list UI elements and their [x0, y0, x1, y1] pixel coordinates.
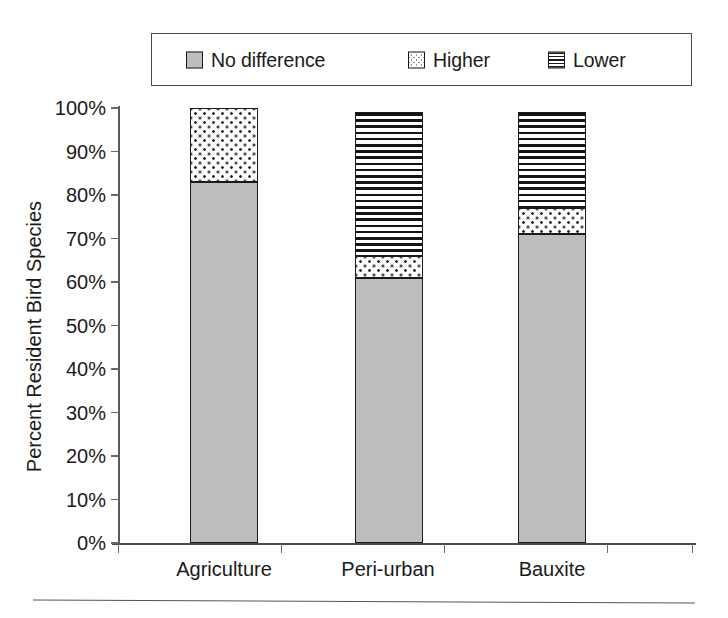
- chart-legend: No difference Higher Lower: [151, 33, 692, 86]
- segment-no-difference[interactable]: [355, 278, 423, 543]
- horizontal-lines-swatch-icon: [548, 51, 565, 68]
- x-axis-tick: [692, 544, 693, 553]
- dotted-swatch-icon: [408, 51, 425, 68]
- legend-label-lower: Lower: [573, 48, 626, 71]
- plot-area: [118, 108, 692, 543]
- segment-lower[interactable]: [518, 112, 586, 208]
- x-axis-tick: [607, 544, 608, 553]
- segment-lower[interactable]: [355, 112, 423, 256]
- solid-gray-swatch-icon: [186, 51, 203, 68]
- bar-peri-urban[interactable]: [355, 108, 423, 543]
- legend-label-higher: Higher: [433, 48, 490, 71]
- segment-no-difference[interactable]: [190, 182, 258, 543]
- legend-item-higher: Higher: [408, 48, 490, 71]
- legend-item-lower: Lower: [548, 48, 626, 71]
- segment-higher[interactable]: [355, 256, 423, 278]
- x-axis-tick: [281, 544, 282, 553]
- x-axis-label-bauxite: Bauxite: [442, 558, 662, 581]
- legend-item-no-difference: No difference: [186, 48, 325, 71]
- bar-agriculture[interactable]: [190, 108, 258, 543]
- bar-bauxite[interactable]: [518, 108, 586, 543]
- bottom-rule: [33, 600, 695, 604]
- segment-higher[interactable]: [518, 208, 586, 234]
- x-axis-tick: [444, 544, 445, 553]
- chart-figure: No difference Higher Lower 0%10%20%30%40…: [0, 0, 728, 618]
- x-axis-line: [112, 543, 696, 545]
- y-axis-title: Percent Resident Bird Species: [23, 137, 46, 537]
- legend-label-no-difference: No difference: [211, 48, 325, 71]
- x-axis-tick: [118, 544, 119, 553]
- segment-higher[interactable]: [190, 108, 258, 182]
- y-axis-tick-label: 100%: [28, 97, 106, 120]
- segment-no-difference[interactable]: [518, 234, 586, 543]
